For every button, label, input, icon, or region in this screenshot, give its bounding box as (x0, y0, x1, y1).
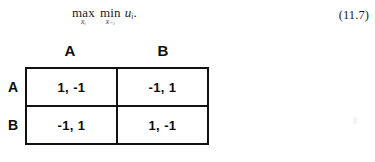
payoff-cell-aa: 1, -1 (27, 69, 117, 106)
row-header-a: A (5, 79, 21, 95)
column-header-b: B (143, 42, 183, 59)
scan-artifact (353, 117, 357, 124)
table-row: 1, -1 -1, 1 (27, 69, 207, 106)
payoff-table: 1, -1 -1, 1 -1, 1 1, -1 (25, 67, 209, 145)
payoff-cell-ab: -1, 1 (117, 69, 207, 106)
row-header-b: B (5, 117, 21, 133)
column-header-a: A (50, 42, 90, 59)
payoff-cell-ba: -1, 1 (27, 106, 117, 143)
payoff-cell-bb: 1, -1 (117, 106, 207, 143)
table-row: -1, 1 1, -1 (27, 106, 207, 143)
payoff-matrix: A B A B 1, -1 -1, 1 -1, 1 1, -1 (0, 0, 375, 162)
